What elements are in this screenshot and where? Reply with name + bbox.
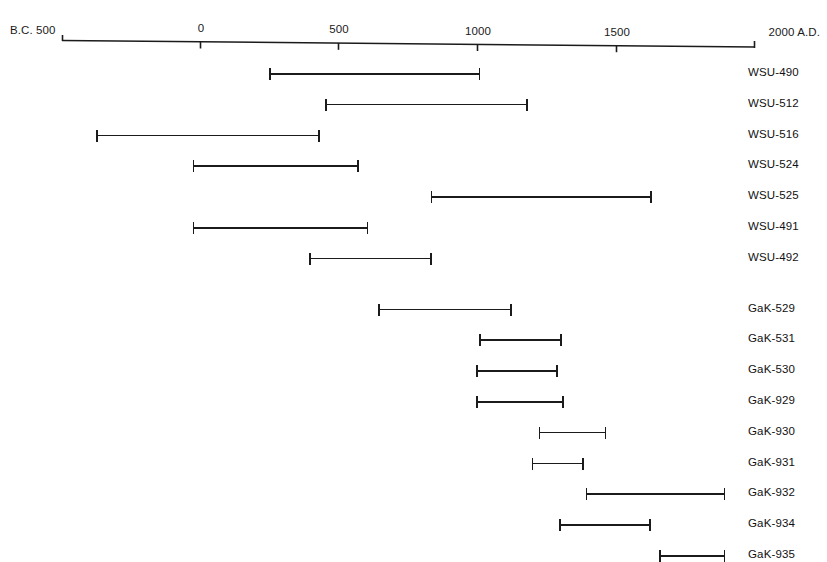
date-range-bar[interactable]	[269, 68, 481, 80]
sample-label: GaK-930	[748, 424, 795, 438]
range-end-cap	[582, 458, 584, 470]
date-range-bar[interactable]	[659, 550, 725, 562]
range-row: WSU-516	[0, 125, 827, 147]
date-range-bar[interactable]	[476, 396, 563, 408]
range-rule	[325, 104, 527, 106]
range-rule	[269, 73, 481, 75]
range-row: WSU-490	[0, 63, 827, 85]
date-range-bar[interactable]	[325, 99, 527, 111]
date-range-bar[interactable]	[559, 519, 650, 531]
range-row: WSU-491	[0, 217, 827, 239]
range-end-cap	[318, 130, 320, 142]
sample-label: GaK-529	[748, 301, 795, 315]
range-rule	[431, 196, 652, 198]
date-range-bar[interactable]	[193, 222, 369, 234]
range-rule	[476, 401, 563, 403]
range-rule	[479, 339, 562, 341]
range-row: GaK-929	[0, 391, 827, 413]
sample-label: GaK-934	[748, 516, 795, 530]
range-end-cap	[479, 68, 481, 80]
date-range-bar[interactable]	[532, 458, 585, 470]
range-end-cap	[367, 222, 369, 234]
range-rule	[476, 370, 558, 372]
range-rule	[193, 227, 369, 229]
sample-label: WSU-516	[748, 127, 799, 141]
range-row: GaK-931	[0, 453, 827, 475]
sample-label: WSU-492	[748, 250, 799, 264]
range-rule	[532, 463, 585, 465]
range-row: GaK-529	[0, 299, 827, 321]
range-rule	[586, 493, 726, 495]
range-rule	[193, 165, 359, 167]
range-end-cap	[510, 304, 512, 316]
range-row: WSU-524	[0, 155, 827, 177]
range-row: GaK-530	[0, 360, 827, 382]
range-end-cap	[650, 191, 652, 203]
date-range-bar[interactable]	[431, 191, 652, 203]
range-end-cap	[526, 99, 528, 111]
range-end-cap	[430, 253, 432, 265]
range-end-cap	[605, 427, 607, 439]
range-rule	[539, 432, 607, 434]
range-bar-rows: WSU-490WSU-512WSU-516WSU-524WSU-525WSU-4…	[0, 0, 827, 562]
range-row: GaK-935	[0, 545, 827, 562]
range-end-cap	[560, 334, 562, 346]
radiocarbon-range-chart: B.C. 500 0 500 1000 1500 2000 A.D. WSU-4…	[0, 0, 827, 562]
range-rule	[659, 555, 725, 557]
range-rule	[559, 524, 650, 526]
range-row: GaK-934	[0, 514, 827, 536]
range-row: GaK-932	[0, 483, 827, 505]
range-row: GaK-930	[0, 422, 827, 444]
range-rule	[309, 258, 432, 260]
sample-label: WSU-524	[748, 157, 799, 171]
range-end-cap	[724, 488, 726, 500]
sample-label: GaK-931	[748, 455, 795, 469]
range-rule	[96, 135, 320, 137]
range-row: WSU-492	[0, 248, 827, 270]
sample-label: GaK-935	[748, 547, 795, 561]
range-row: WSU-525	[0, 186, 827, 208]
sample-label: GaK-530	[748, 362, 795, 376]
date-range-bar[interactable]	[96, 130, 320, 142]
sample-label: GaK-932	[748, 485, 795, 499]
sample-label: WSU-525	[748, 188, 799, 202]
range-end-cap	[724, 550, 726, 562]
date-range-bar[interactable]	[309, 253, 432, 265]
range-rule	[378, 309, 512, 311]
sample-label: WSU-490	[748, 65, 799, 79]
date-range-bar[interactable]	[586, 488, 726, 500]
range-end-cap	[562, 396, 564, 408]
sample-label: GaK-929	[748, 393, 795, 407]
date-range-bar[interactable]	[479, 334, 562, 346]
sample-label: GaK-531	[748, 331, 795, 345]
range-end-cap	[556, 365, 558, 377]
sample-label: WSU-512	[748, 96, 799, 110]
range-end-cap	[357, 160, 359, 172]
range-row: GaK-531	[0, 329, 827, 351]
date-range-bar[interactable]	[378, 304, 512, 316]
range-end-cap	[649, 519, 651, 531]
date-range-bar[interactable]	[193, 160, 359, 172]
date-range-bar[interactable]	[476, 365, 558, 377]
range-row: WSU-512	[0, 94, 827, 116]
sample-label: WSU-491	[748, 219, 799, 233]
date-range-bar[interactable]	[539, 427, 607, 439]
